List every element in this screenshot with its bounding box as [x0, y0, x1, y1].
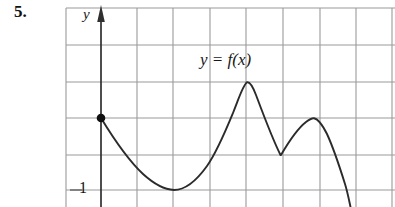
function-curve: [101, 82, 351, 207]
graph-plot-area: [0, 0, 395, 207]
initial-point-marker: [97, 114, 106, 123]
function-equation-label: y = f(x): [200, 50, 251, 70]
figure-container: 5.: [0, 0, 395, 207]
y-tick-label-1: 1: [79, 179, 87, 197]
y-axis-label: y: [83, 6, 90, 23]
y-axis: [97, 5, 105, 207]
horizontal-gridlines: [66, 8, 395, 190]
